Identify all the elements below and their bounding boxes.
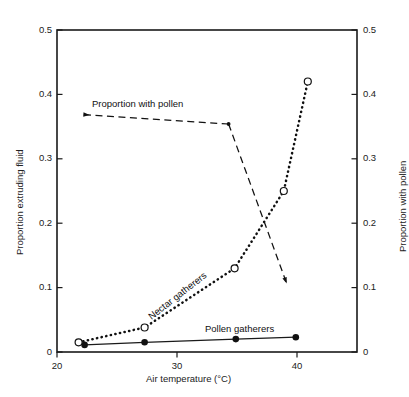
x-axis-tick-40: 40 (281, 360, 313, 371)
y-axis-right-tick-0: 0 (363, 346, 393, 357)
chart-plot-area (0, 0, 409, 397)
x-axis-tick-30: 30 (161, 360, 193, 371)
series-proportion-with-pollen (84, 115, 287, 283)
y-axis-right-tick-0.2: 0.2 (363, 217, 393, 228)
x-axis-tick-20: 20 (41, 360, 73, 371)
y-axis-left-ticks (57, 30, 63, 352)
y-axis-right-title: Proportion with pollen (397, 161, 408, 252)
y-axis-right-tick-0.4: 0.4 (363, 88, 393, 99)
series-nectar-gatherers (75, 78, 311, 346)
y-axis-left-tick-0.5: 0.5 (16, 24, 52, 35)
y-axis-left-tick-0: 0 (16, 346, 52, 357)
annotation-proportion-with-pollen: Proportion with pollen (92, 98, 183, 109)
series-pollen-gatherers (81, 334, 299, 348)
y-axis-right-ticks (352, 30, 358, 352)
x-axis-ticks (57, 352, 297, 358)
plot-frame (57, 30, 357, 352)
y-axis-left-title: Proportion extruding fluid (14, 149, 25, 255)
y-axis-left-tick-0.1: 0.1 (16, 281, 52, 292)
y-axis-right-tick-0.3: 0.3 (363, 152, 393, 163)
annotation-pollen-gatherers: Pollen gatherers (205, 323, 274, 334)
chart-figure: 0.5 0.4 0.3 0.2 0.1 0 0.5 0.4 0.3 0.2 0.… (0, 0, 409, 397)
x-axis-title: Air temperature (°C) (146, 373, 231, 384)
y-axis-right-tick-0.5: 0.5 (363, 24, 393, 35)
y-axis-left-tick-0.4: 0.4 (16, 88, 52, 99)
y-axis-right-tick-0.1: 0.1 (363, 281, 393, 292)
